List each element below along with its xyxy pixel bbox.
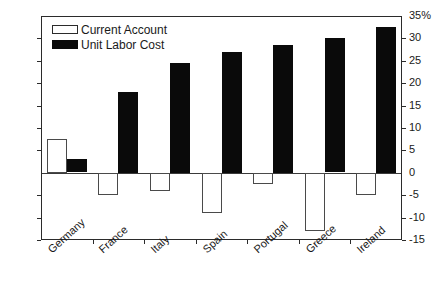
y-tick-mark-left-20 (37, 83, 41, 84)
y-tick-mark-left-10 (37, 128, 41, 129)
bar-germany-unit-labor-cost (67, 159, 87, 172)
y-tick-label-right-35: 35% (409, 10, 431, 21)
legend-swatch-unit-labor-cost (52, 40, 78, 49)
bar-ireland-unit-labor-cost (376, 27, 396, 173)
y-tick-mark-left-25 (37, 61, 41, 62)
chart-legend: Current Account Unit Labor Cost (52, 22, 167, 52)
bar-france-current-account (98, 173, 118, 195)
legend-label-current-account: Current Account (81, 24, 167, 36)
y-tick-mark-right-5 (402, 150, 406, 151)
bar-italy-unit-labor-cost (170, 63, 190, 173)
x-tick-mark-italy (144, 240, 145, 244)
y-tick-label-right-15: 15 (409, 100, 421, 111)
y-tick-mark-left--15 (37, 240, 41, 241)
y-tick-mark-left-5 (37, 150, 41, 151)
y-tick-label-right-5: 5 (409, 144, 415, 155)
y-tick-mark-right-25 (402, 61, 406, 62)
y-tick-mark-right--5 (402, 195, 406, 196)
x-tick-mark-portugal (247, 240, 248, 244)
bar-greece-current-account (305, 173, 325, 231)
x-tick-mark-france (93, 240, 94, 244)
y-tick-mark-right-30 (402, 38, 406, 39)
y-tick-mark-right--15 (402, 240, 406, 241)
y-tick-mark-left-15 (37, 106, 41, 107)
bar-italy-current-account (150, 173, 170, 191)
x-tick-mark-greece (299, 240, 300, 244)
bar-greece-unit-labor-cost (325, 38, 345, 172)
y-tick-label-right--5: -5 (409, 189, 419, 200)
bar-portugal-unit-labor-cost (273, 45, 293, 173)
bar-spain-current-account (202, 173, 222, 213)
y-tick-label-right-0: 0 (409, 167, 415, 178)
y-tick-label-right--10: -10 (409, 212, 425, 223)
y-tick-mark-right-20 (402, 83, 406, 84)
x-tick-mark-ireland (350, 240, 351, 244)
y-tick-label-right--15: -15 (409, 234, 425, 245)
y-tick-label-right-20: 20 (409, 77, 421, 88)
bar-france-unit-labor-cost (118, 92, 138, 173)
y-tick-label-right-25: 25 (409, 55, 421, 66)
legend-label-unit-labor-cost: Unit Labor Cost (81, 39, 164, 51)
y-tick-label-right-30: 30 (409, 32, 421, 43)
bar-germany-current-account (47, 139, 67, 173)
legend-item-current-account: Current Account (52, 22, 167, 37)
y-tick-mark-right-10 (402, 128, 406, 129)
x-tick-mark-spain (196, 240, 197, 244)
chart-container: 35%35%303025252020151510105500-5-5-10-10… (0, 0, 445, 292)
y-tick-mark-right-15 (402, 106, 406, 107)
bar-ireland-current-account (356, 173, 376, 195)
legend-item-unit-labor-cost: Unit Labor Cost (52, 37, 167, 52)
y-tick-mark-left--10 (37, 218, 41, 219)
bar-portugal-current-account (253, 173, 273, 184)
y-tick-label-right-10: 10 (409, 122, 421, 133)
y-tick-mark-left-30 (37, 38, 41, 39)
y-tick-mark-right--10 (402, 218, 406, 219)
legend-swatch-current-account (52, 25, 78, 34)
y-tick-mark-left--5 (37, 195, 41, 196)
bar-spain-unit-labor-cost (222, 52, 242, 173)
